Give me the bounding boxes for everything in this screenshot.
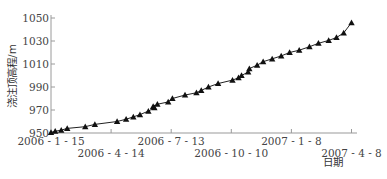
triangle-marker-icon <box>348 19 354 25</box>
x-tick-label: 2006 - 10 - 10 <box>194 147 268 159</box>
triangle-marker-icon <box>306 44 312 50</box>
y-tick-label: 990 <box>29 81 49 93</box>
triangle-marker-icon <box>278 53 284 59</box>
y-tick-label: 1050 <box>22 12 49 24</box>
x-tick-label: 2007 - 1 - 8 <box>261 135 322 147</box>
y-tick-label: 1030 <box>22 35 49 47</box>
y-axis-title: 浇注顶高程/m <box>6 44 18 108</box>
triangle-marker-icon <box>137 111 143 117</box>
elevation-line-chart: 950970990101010301050 2006 - 1 - 152006 … <box>0 0 387 179</box>
triangle-marker-icon <box>238 72 244 78</box>
x-tick-label: 2006 - 1 - 15 <box>17 135 84 147</box>
triangle-marker-icon <box>254 62 260 68</box>
y-tick-label: 1010 <box>22 58 49 70</box>
triangle-marker-icon <box>246 65 252 71</box>
x-axis: 2006 - 1 - 152006 - 4 - 142006 - 7 - 132… <box>17 129 381 159</box>
data-series <box>48 19 355 135</box>
triangle-marker-icon <box>333 34 339 40</box>
series-line <box>51 23 352 133</box>
triangle-marker-icon <box>229 77 235 83</box>
triangle-marker-icon <box>198 87 204 93</box>
x-tick-label: 2006 - 4 - 14 <box>77 147 145 159</box>
y-axis: 950970990101010301050 <box>22 12 55 139</box>
y-tick-label: 970 <box>29 104 49 116</box>
x-tick-label: 2006 - 7 - 13 <box>138 135 205 147</box>
x-axis-title: 日期 <box>323 156 343 168</box>
